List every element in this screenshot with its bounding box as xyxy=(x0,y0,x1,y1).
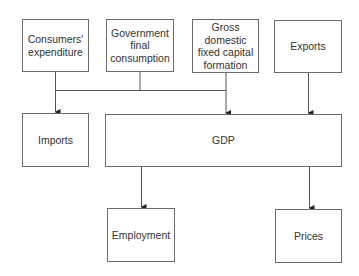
node-label: Imports xyxy=(38,134,73,147)
node-government-final-consumption: Government final consumption xyxy=(106,19,174,72)
node-gross-fixed-capital-formation: Gross domestic fixed capital formation xyxy=(192,19,259,73)
node-label: Gross domestic fixed capital formation xyxy=(198,21,253,71)
node-label: Employment xyxy=(112,229,170,242)
node-consumers-expenditure: Consumers' expenditure xyxy=(22,19,89,72)
node-label: Exports xyxy=(290,40,326,53)
node-label: Consumers' expenditure xyxy=(28,33,84,58)
node-label: Government final consumption xyxy=(110,27,170,65)
node-imports: Imports xyxy=(22,113,89,167)
node-exports: Exports xyxy=(274,20,342,73)
node-prices: Prices xyxy=(275,209,342,263)
node-employment: Employment xyxy=(107,208,175,262)
node-label: GDP xyxy=(212,134,235,147)
node-label: Prices xyxy=(294,230,323,243)
node-gdp: GDP xyxy=(105,114,342,167)
